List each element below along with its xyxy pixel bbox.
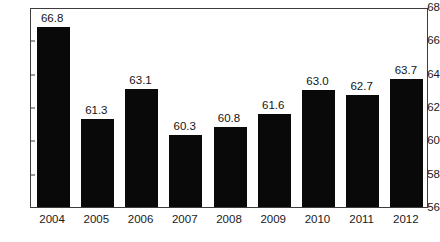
bar <box>302 90 335 207</box>
bar-value-label: 60.3 <box>174 121 196 133</box>
x-axis-tick-label: 2010 <box>305 214 331 226</box>
y-axis-tick-mark <box>30 74 35 75</box>
y-axis-tick-mark <box>30 174 35 175</box>
x-axis-tick-label: 2004 <box>39 214 65 226</box>
x-axis-tick-label: 2008 <box>216 214 242 226</box>
bar <box>81 119 114 207</box>
y-axis-tick-label: 68 <box>416 2 440 14</box>
bar-value-label: 63.1 <box>129 75 151 87</box>
x-axis-tick-label: 2005 <box>84 214 110 226</box>
bar <box>125 89 158 207</box>
bar-value-label: 61.6 <box>262 100 284 112</box>
y-axis-tick-label: 64 <box>416 69 440 81</box>
bar <box>258 114 291 207</box>
y-axis-tick-label: 66 <box>416 36 440 48</box>
bar-value-label: 66.8 <box>41 13 63 25</box>
y-axis <box>0 0 28 242</box>
bar-value-label: 60.8 <box>218 113 240 125</box>
y-axis-tick-mark <box>30 41 35 42</box>
y-axis-tick-label: 60 <box>416 136 440 148</box>
bar-chart: 56586062646668 66.861.363.160.360.861.66… <box>0 0 440 242</box>
bar-value-label: 63.0 <box>306 76 328 88</box>
x-axis-tick-label: 2011 <box>349 214 374 226</box>
x-axis-tick-label: 2006 <box>128 214 154 226</box>
x-axis-tick-label: 2007 <box>172 214 198 226</box>
x-axis-tick-label: 2009 <box>260 214 286 226</box>
bar-value-label: 61.3 <box>85 105 107 117</box>
y-axis-tick-label: 58 <box>416 169 440 181</box>
y-axis-tick-mark <box>30 108 35 109</box>
bar <box>214 127 247 207</box>
bar <box>37 27 70 207</box>
bar <box>169 135 202 207</box>
y-axis-tick-label: 56 <box>416 202 440 214</box>
bar-value-label: 62.7 <box>350 81 372 93</box>
x-axis-tick-label: 2012 <box>393 214 419 226</box>
bar-value-label: 63.7 <box>395 65 417 77</box>
y-axis-tick-label: 62 <box>416 102 440 114</box>
bar <box>346 95 379 207</box>
y-axis-tick-mark <box>30 141 35 142</box>
